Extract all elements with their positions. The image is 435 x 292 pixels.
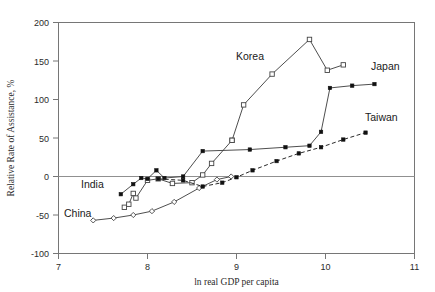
data-point: [351, 84, 354, 87]
data-point: [146, 177, 149, 180]
data-point: [131, 191, 135, 195]
data-point: [241, 103, 245, 107]
data-point: [270, 72, 274, 76]
data-point: [181, 179, 184, 182]
y-tick-label-neg50: -50: [36, 211, 49, 221]
y-tick-label-0: 0: [44, 172, 49, 182]
data-point: [325, 68, 329, 72]
data-point: [209, 161, 213, 165]
data-point: [230, 138, 234, 142]
chart-figure: 200 150 100 50 0 -50 -100 7 8 9 10 11 ln…: [0, 0, 435, 292]
data-point: [200, 173, 204, 177]
data-point: [319, 130, 322, 133]
data-point: [275, 159, 278, 162]
data-point: [201, 149, 204, 152]
series-label-india: India: [81, 178, 104, 190]
y-tick-label-150: 150: [34, 57, 49, 67]
data-point: [140, 176, 143, 179]
data-point: [201, 185, 204, 188]
x-tick-label-10: 10: [320, 262, 330, 272]
data-point: [342, 138, 345, 141]
data-point: [155, 169, 158, 172]
y-tick-label-200: 200: [34, 18, 49, 28]
data-point: [119, 193, 122, 196]
x-axis-title: ln real GDP per capita: [194, 277, 279, 287]
data-point: [127, 202, 131, 206]
y-axis-title: Relative Rate of Assistance, %: [6, 79, 16, 196]
y-tick-label-50: 50: [39, 134, 49, 144]
data-point: [284, 146, 287, 149]
x-tick-label-11: 11: [410, 262, 419, 272]
data-point: [221, 181, 224, 184]
data-point: [364, 131, 367, 134]
data-point: [341, 63, 345, 67]
data-point: [248, 148, 251, 151]
series-label-korea: Korea: [236, 50, 264, 62]
data-point: [251, 169, 254, 172]
data-point: [170, 181, 174, 185]
data-point: [297, 152, 300, 155]
data-point: [308, 144, 311, 147]
x-tick-label-8: 8: [145, 262, 150, 272]
data-point: [181, 175, 184, 178]
x-tick-label-9: 9: [234, 262, 239, 272]
data-point: [134, 196, 138, 200]
data-point: [307, 37, 311, 41]
data-point: [328, 86, 331, 89]
data-point: [156, 177, 159, 180]
chart-background: [0, 0, 435, 292]
x-tick-label-7: 7: [56, 262, 61, 272]
data-point: [235, 176, 238, 179]
y-tick-label-neg100: -100: [31, 249, 49, 259]
data-point: [122, 205, 126, 209]
series-label-china: China: [64, 207, 92, 219]
series-label-japan: Japan: [371, 60, 400, 72]
data-point: [373, 82, 376, 85]
series-label-taiwan: Taiwan: [365, 111, 398, 123]
data-point: [132, 183, 135, 186]
y-tick-label-100: 100: [34, 95, 49, 105]
data-point: [319, 146, 322, 149]
